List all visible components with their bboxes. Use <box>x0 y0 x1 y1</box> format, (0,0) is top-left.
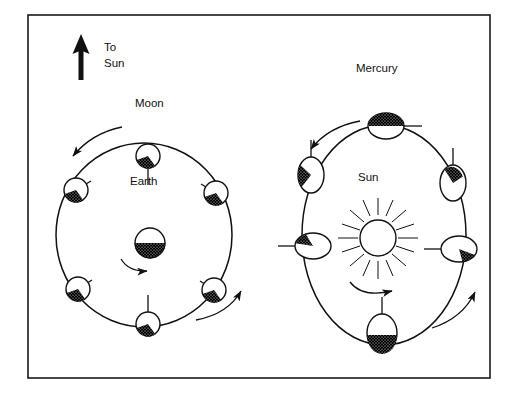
label-to-sun-line1: To <box>104 41 116 53</box>
sun-disc <box>360 220 396 256</box>
label-sun: Sun <box>358 171 378 183</box>
outer-border <box>28 15 490 378</box>
to-sun-arrow-shaft <box>79 50 84 80</box>
label-mercury: Mercury <box>356 62 398 74</box>
label-to-sun-line2: Sun <box>104 57 124 69</box>
orbital-rotation-diagram: To Sun Moon Earth <box>0 0 516 405</box>
label-earth: Earth <box>130 175 158 187</box>
figure-root: To Sun Moon Earth <box>0 0 516 405</box>
label-moon: Moon <box>135 97 164 109</box>
